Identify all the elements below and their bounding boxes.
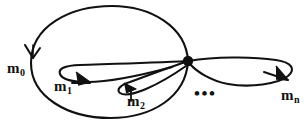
- edge-label-m0-base: m: [7, 60, 20, 76]
- edge-label-m1: m1: [54, 79, 72, 96]
- edge-label-mn-base: m: [281, 87, 294, 103]
- edge-label-m2-subscript: 2: [140, 100, 146, 111]
- edge-mn: [188, 57, 292, 85]
- edge-label-mn: mn: [281, 88, 300, 105]
- edge-label-m1-base: m: [54, 78, 67, 94]
- edge-label-m0-subscript: 0: [20, 67, 26, 78]
- edge-m1: [60, 61, 188, 85]
- edge-label-m0: m0: [7, 61, 25, 78]
- ellipsis-indicator: •••: [194, 85, 216, 102]
- basepoint-vertex: [183, 56, 193, 66]
- edge-label-m1-subscript: 1: [67, 85, 73, 96]
- edge-label-m2-base: m: [127, 93, 140, 109]
- edge-m2-arrowhead: [124, 83, 136, 93]
- loop-diagram: [0, 0, 304, 129]
- figure-canvas: m0 m1 m2 mn •••: [0, 0, 304, 129]
- edge-label-mn-subscript: n: [294, 94, 300, 105]
- edge-label-m2: m2: [127, 94, 145, 111]
